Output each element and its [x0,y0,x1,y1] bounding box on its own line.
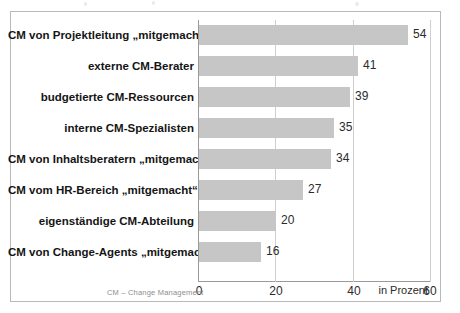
bar-row: 34 [198,144,430,175]
bar-value-label: 41 [363,55,376,75]
category-axis-line [198,281,430,282]
bar[interactable] [199,242,261,262]
bar-row: 27 [198,175,430,206]
scan-artifact-speck [355,2,359,6]
category-label: CM von Change-Agents „mitgemacht“ [8,237,194,268]
category-label: budgetierte CM-Ressourcen [8,82,194,113]
value-axis-title: in Prozent [378,284,428,296]
bar-row: 20 [198,206,430,237]
category-label: CM vom HR-Bereich „mitgemacht“ [8,175,194,206]
bar-row: 35 [198,113,430,144]
category-label: externe CM-Berater [8,51,194,82]
plot-area: 54 41 39 35 34 27 20 16 [198,20,430,282]
bar[interactable] [199,149,331,169]
category-label: CM von Inhaltsberatern „mitgemacht“ [8,144,194,175]
tick-label-40: 40 [347,284,360,298]
bar[interactable] [199,118,334,138]
bar-row: 54 [198,20,430,51]
bar[interactable] [199,56,358,76]
category-label: CM von Projektleitung „mitgemacht“ [8,20,194,51]
bar-row: 41 [198,51,430,82]
bar-value-label: 20 [281,210,294,230]
tick-label-20: 20 [269,284,282,298]
bar-value-label: 27 [308,179,321,199]
bar-value-label: 34 [336,148,349,168]
category-axis-labels: CM von Projektleitung „mitgemacht“ exter… [11,20,194,282]
category-row: eigenständige CM-Abteilung [11,206,194,237]
category-row: externe CM-Berater [11,51,194,82]
bar[interactable] [199,87,350,107]
gridline-60 [430,20,431,282]
footnote-abbreviation: CM – Change Management [107,288,204,297]
category-row: CM von Inhaltsberatern „mitgemacht“ [11,144,194,175]
category-row: interne CM-Spezialisten [11,113,194,144]
bar-value-label: 16 [266,241,279,261]
bar-row: 16 [198,237,430,268]
category-label: interne CM-Spezialisten [8,113,194,144]
category-label: eigenständige CM-Abteilung [8,206,194,237]
bar[interactable] [199,25,408,45]
scan-artifact-speck [84,2,87,6]
bar-row: 39 [198,82,430,113]
chart-frame: CM von Projektleitung „mitgemacht“ exter… [10,11,441,302]
category-row: CM von Projektleitung „mitgemacht“ [11,20,194,51]
category-row: CM von Change-Agents „mitgemacht“ [11,237,194,268]
bar[interactable] [199,180,303,200]
bar-value-label: 54 [413,24,426,44]
bar[interactable] [199,211,276,231]
bar-value-label: 35 [339,117,352,137]
bar-value-label: 39 [355,86,368,106]
scan-artifact-speck [152,1,155,5]
category-row: budgetierte CM-Ressourcen [11,82,194,113]
category-row: CM vom HR-Bereich „mitgemacht“ [11,175,194,206]
